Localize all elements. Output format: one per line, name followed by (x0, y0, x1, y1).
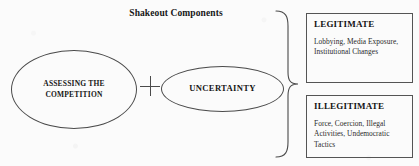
outcome-box-legitimate: LEGITIMATE Lobbying, Media Exposure, Ins… (306, 13, 413, 83)
node-assessing-label-line1: ASSESSING THE (43, 79, 104, 88)
plus-icon (140, 76, 160, 96)
outcome-legitimate-body: Lobbying, Media Exposure, Institutional … (314, 37, 406, 58)
outcome-legitimate-title: LEGITIMATE (314, 19, 406, 30)
node-uncertainty-label: UNCERTAINTY (189, 83, 255, 95)
node-assessing-label: ASSESSING THE COMPETITION (43, 79, 104, 99)
node-assessing-label-line2: COMPETITION (45, 90, 102, 99)
outcome-illegitimate-body: Force, Coercion, Illegal Activities, Und… (314, 119, 406, 151)
node-assessing-the-competition: ASSESSING THE COMPETITION (11, 50, 137, 129)
curly-brace-icon (272, 8, 306, 160)
node-uncertainty: UNCERTAINTY (161, 66, 284, 112)
diagram-title: Shakeout Components (96, 8, 256, 18)
outcome-illegitimate-title: ILLEGITIMATE (314, 101, 406, 112)
shakeout-components-diagram: Shakeout Components ASSESSING THE COMPET… (0, 0, 419, 166)
plus-icon-vertical-bar (150, 76, 151, 96)
outcome-box-illegitimate: ILLEGITIMATE Force, Coercion, Illegal Ac… (306, 95, 413, 158)
